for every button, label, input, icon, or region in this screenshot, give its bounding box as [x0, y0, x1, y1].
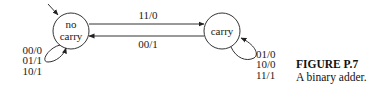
state-diagram: no carry carry 11/0 00/1 00/0 01/1 10/1 … — [0, 0, 387, 91]
state-no-carry: no carry — [53, 13, 89, 49]
transition-label-11-0: 11/0 — [138, 9, 158, 21]
figure-caption-title: FIGURE P.7 — [296, 58, 358, 70]
state-carry-label: carry — [211, 25, 234, 37]
state-no-carry-label-line2: carry — [60, 30, 83, 42]
initial-state-arrow — [48, 4, 58, 15]
transition-label-00-1: 00/1 — [138, 38, 158, 50]
state-no-carry-label-line1: no — [66, 18, 78, 30]
figure-caption-text: A binary adder. — [296, 71, 367, 84]
self-loop-no-carry-label-3: 10/1 — [22, 65, 42, 77]
state-carry: carry — [204, 13, 240, 49]
self-loop-carry-label-3: 11/1 — [256, 69, 275, 81]
